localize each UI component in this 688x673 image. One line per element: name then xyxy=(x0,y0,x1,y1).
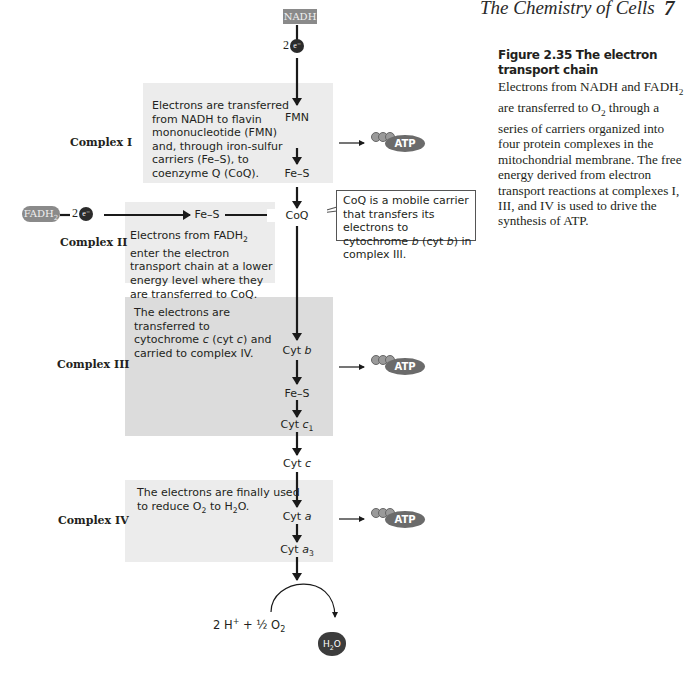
complex-iv-label: Complex IV xyxy=(58,514,129,527)
callout-italic: b xyxy=(447,235,454,248)
complex-iii-description: The electrons are transferred to cytochr… xyxy=(134,306,274,360)
reactant-sub: 2 xyxy=(280,625,285,634)
complex-ii-description: Electrons from FADH2 enter the electron … xyxy=(130,229,275,301)
two-electrons-nadh: 2e⁻ xyxy=(283,38,304,53)
desc-text: O. xyxy=(238,500,250,513)
oxygen-reactants: 2 H+ + ½ O2 xyxy=(213,617,285,634)
carrier-fmn: FMN xyxy=(267,111,327,124)
desc-text: enter the electron transport chain at a … xyxy=(130,247,272,301)
desc-text: (cyt xyxy=(209,333,237,346)
carrier-sub: 1 xyxy=(309,424,314,433)
two-label: 2 xyxy=(283,38,289,52)
carrier-italic: c xyxy=(305,457,311,470)
two-label: 2 xyxy=(72,206,78,220)
carrier-text: Cyt xyxy=(283,510,305,523)
carrier-coq: CoQ xyxy=(267,209,327,222)
callout-text: (cyt xyxy=(419,235,447,248)
carrier-fes-complex-iii: Fe–S xyxy=(267,387,327,400)
two-electrons-fadh2: 2e⁻ xyxy=(72,206,93,221)
atp-icon-complex-iii: ATP xyxy=(371,354,431,376)
carrier-text: Cyt xyxy=(280,543,302,556)
callout-italic: b xyxy=(412,235,419,248)
carrier-italic: b xyxy=(305,344,312,357)
complex-i-label: Complex I xyxy=(70,136,132,149)
coq-callout: CoQ is a mobile carrier that transfers i… xyxy=(336,190,476,241)
fadh2-sub: 2 xyxy=(54,214,58,222)
arrows-layer xyxy=(0,0,688,673)
atp-icon-complex-iv: ATP xyxy=(371,507,431,529)
carrier-cyt-c1: Cyt c1 xyxy=(267,418,327,433)
carrier-text: Cyt xyxy=(283,344,305,357)
atp-label: ATP xyxy=(385,135,425,152)
desc-text: Electrons from FADH xyxy=(130,229,243,242)
carrier-fes-complex-i: Fe–S xyxy=(267,167,327,180)
carrier-cyt-a3: Cyt a3 xyxy=(267,543,327,558)
complex-iii-label: Complex III xyxy=(57,358,129,371)
atp-label: ATP xyxy=(385,358,425,375)
carrier-cyt-a: Cyt a xyxy=(267,510,327,523)
desc-text: to H xyxy=(206,500,232,513)
fadh2-source: FADH2 xyxy=(22,206,60,222)
fadh2-text: FADH xyxy=(24,208,54,219)
carrier-fes-complex-ii: Fe–S xyxy=(177,208,237,221)
electron-icon: e⁻ xyxy=(79,207,93,221)
nadh-source: NADH xyxy=(283,9,317,24)
reactant-text: + ½ O xyxy=(239,618,280,632)
arrow-o2-to-water xyxy=(271,584,335,617)
carrier-text: Cyt xyxy=(283,457,305,470)
carrier-sub: 3 xyxy=(309,549,314,558)
desc-sub: 2 xyxy=(243,235,248,244)
atp-label: ATP xyxy=(385,511,425,528)
water-molecule-icon: H2O xyxy=(318,632,346,656)
carrier-italic: a xyxy=(302,543,309,556)
water-text: O xyxy=(334,639,341,649)
water-text: H xyxy=(323,639,330,649)
carrier-cyt-c: Cyt c xyxy=(267,457,327,470)
complex-ii-label: Complex II xyxy=(60,236,127,249)
electron-icon: e⁻ xyxy=(290,39,304,53)
carrier-text: Cyt xyxy=(281,418,303,431)
atp-icon-complex-i: ATP xyxy=(371,131,431,153)
carrier-cyt-b: Cyt b xyxy=(267,344,327,357)
carrier-italic: a xyxy=(305,510,312,523)
reactant-text: 2 H xyxy=(213,618,233,632)
